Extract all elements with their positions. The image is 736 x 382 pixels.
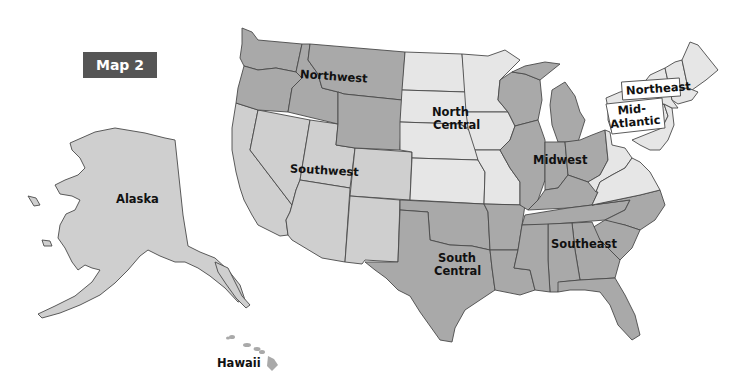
label-south-central-line2: Central (434, 264, 481, 278)
label-south-central-line1: South (438, 251, 476, 265)
region-alaska[interactable] (28, 128, 250, 318)
label-north-central-line2: Central (433, 118, 480, 132)
label-alaska: Alaska (116, 192, 159, 206)
label-hawaii: Hawaii (217, 356, 261, 370)
label-midwest: Midwest (533, 153, 588, 167)
region-southeast[interactable] (514, 190, 665, 340)
us-regions-map: Northwest North Central Southwest South … (0, 0, 736, 382)
label-north-central-line1: North (432, 105, 469, 119)
label-southeast: Southeast (551, 237, 617, 251)
